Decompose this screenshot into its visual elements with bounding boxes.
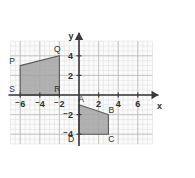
coordinate-plane-figure: ⁻6⁻4⁻224642⁻2⁻4xyPQRSABCD [0,0,195,178]
y-tick-label: ⁻2 [63,110,73,120]
vertex-label-a: A [78,94,84,104]
x-tick-label: ⁻6 [15,99,25,109]
y-tick-label: 2 [68,71,73,81]
coordinate-plane-svg: ⁻6⁻4⁻224642⁻2⁻4xyPQRSABCD [0,0,195,178]
vertex-label-r: R [54,84,60,94]
x-tick-label: 4 [116,99,121,109]
vertex-label-d: D [68,134,74,144]
vertex-label-q: Q [54,44,61,54]
y-axis-arrowhead [75,32,83,40]
x-tick-label: 2 [96,99,101,109]
x-tick-label: 6 [135,99,140,109]
x-tick-label: ⁻2 [54,99,64,109]
vertex-label-b: B [109,105,115,115]
x-axis-label: x [157,101,162,111]
vertex-label-c: C [108,134,114,144]
vertex-label-p: P [9,56,15,66]
vertex-label-s: S [9,84,15,94]
x-axis-arrowhead [152,91,159,99]
y-axis-label: y [68,31,73,41]
x-tick-label: ⁻4 [35,99,45,109]
y-tick-label: 4 [68,51,73,61]
